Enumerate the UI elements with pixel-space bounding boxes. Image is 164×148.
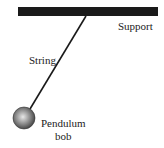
support-bar — [18, 7, 158, 16]
pendulum-bob — [13, 107, 35, 129]
pendulum-diagram: Support String Pendulum bob — [0, 0, 164, 148]
support-label: Support — [118, 20, 153, 32]
bob-label-line1: Pendulum — [41, 117, 86, 129]
bob-label-line2: bob — [55, 130, 72, 142]
string-label: String — [29, 54, 56, 66]
